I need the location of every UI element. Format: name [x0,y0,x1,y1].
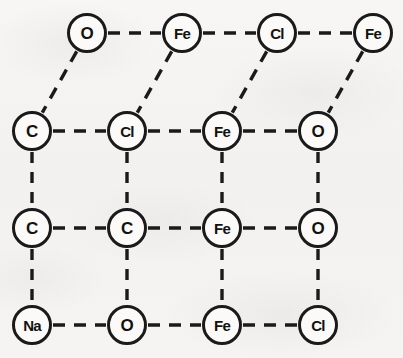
bond-diagonal [328,51,362,112]
atom-label: Fe [365,26,381,41]
atom-label: Na [23,318,41,333]
atom-node-cl[interactable]: Cl [107,111,147,151]
atom-node-cl[interactable]: Cl [257,13,297,53]
atom-node-o[interactable]: O [67,13,107,53]
atom-label: C [121,220,133,237]
atom-label: Cl [120,124,133,139]
atom-label: Cl [270,26,283,41]
atom-label: Cl [311,318,324,333]
atom-label: Fe [214,221,230,236]
atom-label: C [26,123,38,140]
bond-diagonal [42,51,76,112]
atom-node-fe[interactable]: Fe [202,208,242,248]
atom-label: Fe [214,124,230,139]
atom-label: Fe [174,26,190,41]
atom-node-fe[interactable]: Fe [353,13,393,53]
atom-node-fe[interactable]: Fe [162,13,202,53]
bond-diagonal [232,51,266,112]
lattice-diagram: OFeClFeCClFeOCCFeONaOFeCl [0,0,403,358]
atom-node-fe[interactable]: Fe [202,305,242,345]
atom-node-c[interactable]: C [12,111,52,151]
atom-label: O [312,220,325,237]
atom-label: Fe [214,318,230,333]
atom-node-o[interactable]: O [298,208,338,248]
atom-label: O [121,317,134,334]
atom-node-cl[interactable]: Cl [298,305,338,345]
atom-node-na[interactable]: Na [12,305,52,345]
atom-label: C [26,220,38,237]
atom-node-c[interactable]: C [107,208,147,248]
atom-node-fe[interactable]: Fe [202,111,242,151]
bond-layer [0,0,403,358]
bond-diagonal [137,51,171,112]
atom-node-o[interactable]: O [107,305,147,345]
atom-node-c[interactable]: C [12,208,52,248]
atom-label: O [312,123,325,140]
atom-label: O [81,25,94,42]
atom-node-o[interactable]: O [298,111,338,151]
